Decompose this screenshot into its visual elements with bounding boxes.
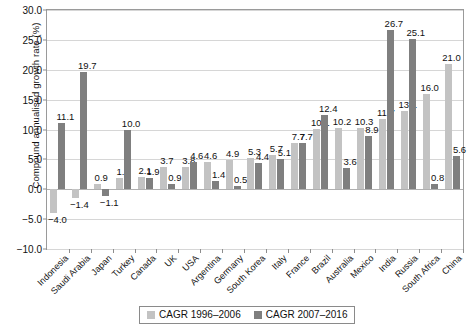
y-tick-label: 20.0 bbox=[23, 64, 42, 75]
y-axis-title: Compound annualised growth rate (%) bbox=[30, 1, 41, 211]
bar[interactable] bbox=[453, 156, 460, 189]
legend-label-cagr-2007-2016: CAGR 2007–2016 bbox=[266, 309, 348, 320]
x-tick-mark bbox=[419, 249, 420, 253]
bar[interactable] bbox=[116, 178, 123, 189]
bar[interactable] bbox=[50, 189, 57, 213]
bar[interactable] bbox=[387, 30, 394, 190]
bar[interactable] bbox=[401, 111, 408, 189]
x-tick-mark bbox=[354, 249, 355, 253]
bar-group: 0.9−1.1 bbox=[91, 10, 113, 249]
x-tick-mark bbox=[441, 249, 442, 253]
bar[interactable] bbox=[269, 155, 276, 189]
bar-group: 1.810.0 bbox=[113, 10, 135, 249]
x-tick-mark bbox=[113, 249, 114, 253]
legend-label-cagr-1996-2006: CAGR 1996–2006 bbox=[159, 309, 241, 320]
bar-group: −4.011.1 bbox=[47, 10, 69, 249]
bar[interactable] bbox=[94, 184, 101, 189]
bar-group: 10.23.6 bbox=[332, 10, 354, 249]
x-tick-mark bbox=[222, 249, 223, 253]
bar[interactable] bbox=[379, 119, 386, 189]
plot-area: 30.025.020.015.010.05.00.0−5.0−10.0Indon… bbox=[46, 9, 464, 250]
bar-value-label: −4.0 bbox=[44, 214, 70, 225]
x-tick-mark bbox=[266, 249, 267, 253]
x-tick-mark bbox=[288, 249, 289, 253]
bar-group: 16.00.8 bbox=[419, 10, 441, 249]
y-tick-label: 30.0 bbox=[23, 5, 42, 16]
bar-group: 3.70.9 bbox=[156, 10, 178, 249]
y-tick-label: −10.0 bbox=[17, 244, 42, 255]
x-axis-label: UK bbox=[163, 253, 179, 269]
bar[interactable] bbox=[102, 189, 109, 196]
bar[interactable] bbox=[299, 143, 306, 189]
bar-group: 21.05.6 bbox=[441, 10, 463, 249]
x-axis-label: Japan bbox=[89, 253, 113, 277]
chart-legend: CAGR 1996–2006 CAGR 2007–2016 bbox=[139, 306, 355, 324]
x-tick-mark bbox=[69, 249, 70, 253]
x-tick-mark bbox=[156, 249, 157, 253]
bar[interactable] bbox=[321, 115, 328, 189]
x-tick-mark bbox=[375, 249, 376, 253]
bar-group: −1.419.7 bbox=[69, 10, 91, 249]
bar-group: 13.125.1 bbox=[397, 10, 419, 249]
legend-swatch-light bbox=[147, 311, 155, 319]
x-axis-label: France bbox=[284, 253, 311, 280]
bar[interactable] bbox=[190, 162, 197, 189]
bar[interactable] bbox=[72, 189, 79, 197]
bar[interactable] bbox=[445, 64, 452, 189]
bar[interactable] bbox=[247, 158, 254, 190]
gridline bbox=[47, 249, 463, 250]
bar-value-label: 21.0 bbox=[439, 52, 465, 63]
bar[interactable] bbox=[409, 39, 416, 189]
x-tick-mark bbox=[200, 249, 201, 253]
legend-item-cagr-1996-2006: CAGR 1996–2006 bbox=[147, 309, 241, 320]
x-tick-mark bbox=[332, 249, 333, 253]
x-tick-mark bbox=[397, 249, 398, 253]
bar-group: 7.77.7 bbox=[288, 10, 310, 249]
x-tick-mark bbox=[178, 249, 179, 253]
bar-group: 10.38.9 bbox=[354, 10, 376, 249]
bar[interactable] bbox=[255, 163, 262, 189]
y-tick-label: 15.0 bbox=[23, 94, 42, 105]
bar[interactable] bbox=[58, 123, 65, 189]
bar-group: 2.11.9 bbox=[135, 10, 157, 249]
bar[interactable] bbox=[313, 129, 320, 189]
x-tick-mark bbox=[310, 249, 311, 253]
bar[interactable] bbox=[80, 72, 87, 190]
y-tick-label: −5.0 bbox=[22, 214, 42, 225]
bar-value-label: −1.4 bbox=[66, 199, 92, 210]
bar[interactable] bbox=[146, 178, 153, 189]
bar-value-label: 5.6 bbox=[447, 144, 471, 155]
bar[interactable] bbox=[124, 130, 131, 190]
bar-group: 4.90.5 bbox=[222, 10, 244, 249]
y-tick-label: 25.0 bbox=[23, 34, 42, 45]
bar[interactable] bbox=[277, 159, 284, 189]
x-axis-label: Italy bbox=[270, 253, 289, 272]
x-tick-mark bbox=[244, 249, 245, 253]
bar[interactable] bbox=[357, 128, 364, 190]
bar[interactable] bbox=[168, 184, 175, 189]
bar[interactable] bbox=[365, 136, 372, 189]
bar-chart: Compound annualised growth rate (%) 30.0… bbox=[0, 0, 471, 331]
bar-value-label: 16.0 bbox=[417, 82, 443, 93]
bar[interactable] bbox=[291, 143, 298, 189]
bar-group: 5.75.1 bbox=[266, 10, 288, 249]
bar[interactable] bbox=[138, 177, 145, 190]
legend-swatch-dark bbox=[254, 311, 262, 319]
y-tick-label: 5.0 bbox=[28, 154, 42, 165]
bar-value-label: 13.1 bbox=[395, 99, 421, 110]
bar[interactable] bbox=[234, 186, 241, 189]
x-axis-label: China bbox=[440, 253, 464, 277]
bar[interactable] bbox=[343, 168, 350, 190]
y-tick-label: 0.0 bbox=[28, 184, 42, 195]
bar-group: 11.726.7 bbox=[375, 10, 397, 249]
bar[interactable] bbox=[431, 184, 438, 189]
bar[interactable] bbox=[182, 167, 189, 190]
legend-item-cagr-2007-2016: CAGR 2007–2016 bbox=[254, 309, 348, 320]
bar-group: 3.84.6 bbox=[178, 10, 200, 249]
bar-group: 10.112.4 bbox=[310, 10, 332, 249]
x-tick-mark bbox=[463, 249, 464, 253]
bar[interactable] bbox=[212, 181, 219, 189]
bar-group: 5.34.4 bbox=[244, 10, 266, 249]
x-tick-mark bbox=[135, 249, 136, 253]
bar-group: 4.61.4 bbox=[200, 10, 222, 249]
